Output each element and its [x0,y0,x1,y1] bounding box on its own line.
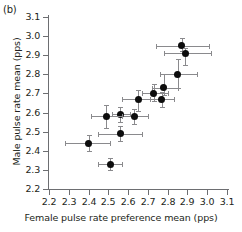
y-tick-mark [43,74,48,75]
y-tick-mark [43,132,48,133]
y-tick-label: 3.1 [14,11,40,22]
y-tick-mark [43,93,48,94]
x-tick-mark [168,190,169,195]
plot-area [49,17,227,189]
y-tick-mark [43,189,48,190]
y-tick-mark [43,170,48,171]
data-point-group [49,17,227,189]
x-error-cap [98,162,99,167]
y-tick-mark [43,36,48,37]
y-axis-title: Male pulse rate mean (pps) [11,22,22,182]
x-tick-mark [108,190,109,195]
x-axis-line [48,189,229,190]
data-point-marker [107,161,114,168]
x-tick-mark [89,190,90,195]
y-tick-mark [43,151,48,152]
x-tick-mark [69,190,70,195]
y-error-cap [108,158,113,159]
y-tick-mark [43,113,48,114]
y-tick-mark [43,17,48,18]
x-tick-mark [148,190,149,195]
x-tick-mark [49,190,50,195]
x-tick-label: 3.1 [214,196,240,207]
x-tick-mark [187,190,188,195]
y-tick-mark [43,55,48,56]
x-tick-mark [207,190,208,195]
x-tick-mark [128,190,129,195]
figure-panel: (b) 2.22.32.42.52.62.72.82.93.03.1 2.22.… [0,0,242,232]
x-axis-title: Female pulse rate preference mean (pps) [0,212,242,223]
x-error-cap [122,162,123,167]
y-tick-label: 2.2 [14,183,40,194]
y-error-cap [108,170,113,171]
x-tick-mark [227,190,228,195]
